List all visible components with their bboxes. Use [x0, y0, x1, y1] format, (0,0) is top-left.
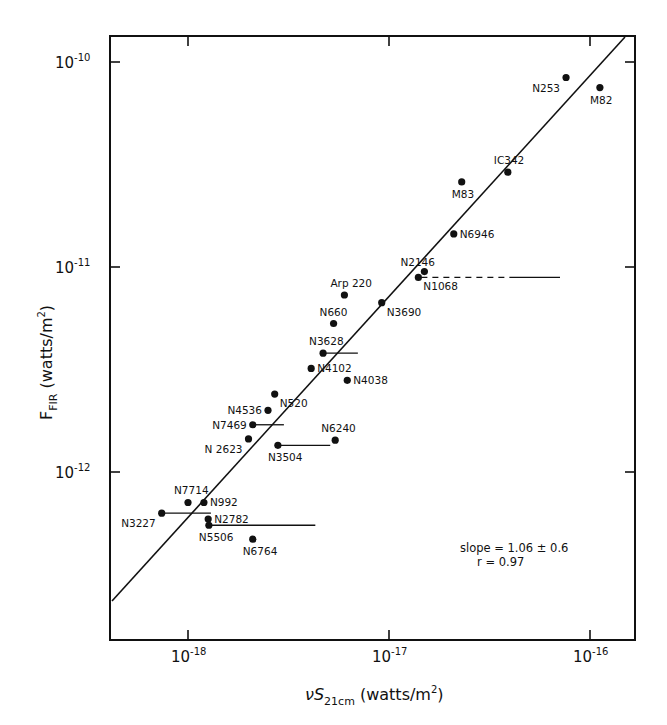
data-point	[341, 291, 348, 298]
data-point	[458, 178, 465, 185]
data-point	[450, 230, 457, 237]
data-point	[332, 437, 339, 444]
point-label: N6946	[460, 228, 495, 240]
point-label: M83	[452, 188, 474, 200]
point-label: N4038	[353, 374, 388, 386]
data-point	[158, 510, 165, 517]
point-label: Arp 220	[330, 277, 372, 289]
point-label: N7714	[174, 484, 209, 496]
data-point	[205, 515, 212, 522]
data-point	[504, 169, 511, 176]
data-point	[264, 407, 271, 414]
point-label: N3690	[387, 306, 422, 318]
scatter-chart: 10-1810-1710-16 10-1010-1110-12 N253M82I…	[0, 0, 667, 725]
data-point	[249, 536, 256, 543]
point-label: N2782	[214, 513, 249, 525]
data-point	[245, 435, 252, 442]
point-label: N3628	[309, 335, 344, 347]
data-point	[308, 365, 315, 372]
point-label: N6764	[243, 545, 278, 557]
data-point	[319, 350, 326, 357]
y-axis-label: FFIR (watts/m2)	[36, 305, 60, 420]
data-point	[249, 421, 256, 428]
point-label: N3504	[268, 451, 303, 463]
x-tick-label: 10-18	[171, 646, 206, 666]
data-point	[344, 377, 351, 384]
y-axis-ticks: 10-1010-1110-12	[55, 52, 635, 482]
data-point	[562, 74, 569, 81]
data-point	[596, 84, 603, 91]
data-point	[205, 522, 212, 529]
point-label: N 2623	[205, 443, 243, 455]
data-point	[330, 320, 337, 327]
regression-line	[112, 37, 625, 601]
point-label: N4536	[227, 404, 262, 416]
data-point	[415, 274, 422, 281]
point-label: N6240	[321, 422, 356, 434]
data-point	[184, 499, 191, 506]
x-axis-label: νS21cm (watts/m2)	[305, 684, 444, 708]
point-label: N253	[532, 82, 560, 94]
data-point	[378, 299, 385, 306]
data-point	[271, 390, 278, 397]
x-tick-label: 10-17	[372, 646, 407, 666]
data-point	[200, 499, 207, 506]
y-tick-label: 10-12	[55, 462, 90, 482]
point-label: N992	[210, 496, 238, 508]
correlation-annotation: r = 0.97	[477, 555, 524, 569]
point-label: N4102	[317, 362, 352, 374]
y-tick-label: 10-11	[55, 257, 90, 277]
point-label: N520	[280, 397, 308, 409]
y-tick-label: 10-10	[55, 52, 90, 72]
x-axis-ticks: 10-1810-1710-16	[171, 36, 608, 666]
slope-annotation: slope = 1.06 ± 0.6	[460, 541, 568, 555]
point-label: N3227	[121, 517, 156, 529]
data-points: N253M82IC342M83N6946N2146N1068Arp 220N36…	[121, 74, 612, 557]
point-label: N7469	[212, 419, 247, 431]
error-bars	[162, 277, 560, 525]
point-label: IC342	[494, 154, 524, 166]
point-label: N2146	[400, 256, 435, 268]
fit-line	[112, 37, 625, 601]
data-point	[421, 268, 428, 275]
point-label: N660	[320, 306, 348, 318]
x-tick-label: 10-16	[573, 646, 608, 666]
point-label: N1068	[423, 280, 458, 292]
point-label: M82	[590, 94, 612, 106]
data-point	[274, 442, 281, 449]
point-label: N5506	[199, 531, 234, 543]
